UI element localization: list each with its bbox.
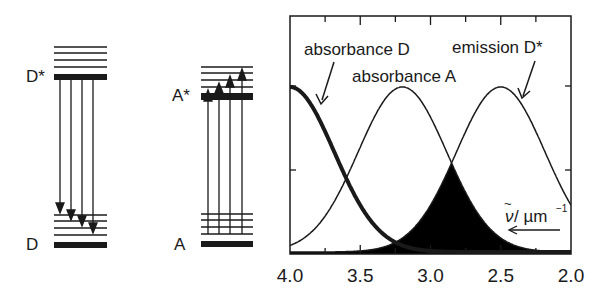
- acceptor-excited-label: A*: [172, 86, 190, 105]
- x-tick-label: 2.0: [558, 265, 584, 286]
- donor-excited-label: D*: [26, 67, 45, 86]
- emission-d-arrow: [518, 61, 535, 98]
- donor-energy-diagram: D* D: [26, 47, 107, 254]
- axis-unit: / µm: [514, 207, 547, 226]
- acceptor-ground-label: A: [174, 235, 186, 254]
- figure: D* D A* A: [0, 0, 601, 305]
- spectra-chart: 4.03.53.02.52.0 absorbance D absorbance …: [277, 16, 584, 286]
- axis-exponent: −1: [556, 203, 568, 214]
- absorbance-d-label: absorbance D: [304, 40, 410, 59]
- x-tick-label: 2.5: [488, 265, 514, 286]
- tilde-mark: ~: [504, 196, 512, 211]
- direction-arrow: [509, 226, 560, 234]
- acceptor-ground-state-bar: [201, 241, 253, 247]
- x-tick-labels: 4.03.53.02.52.0: [277, 265, 584, 286]
- x-axis-label: ν ~ / µm −1: [504, 196, 568, 226]
- absorbance-d-arrow: [316, 62, 334, 104]
- x-tick-label: 4.0: [277, 265, 303, 286]
- x-tick-label: 3.0: [417, 265, 443, 286]
- donor-emission-arrows: [56, 80, 97, 233]
- donor-ground-label: D: [26, 235, 38, 254]
- acceptor-energy-diagram: A* A: [172, 67, 253, 254]
- absorbance-a-label: absorbance A: [352, 67, 457, 86]
- emission-d-label: emission D*: [452, 38, 543, 57]
- donor-ground-state-bar: [54, 242, 107, 248]
- donor-excited-state-bar: [54, 74, 107, 80]
- x-tick-label: 3.5: [347, 265, 373, 286]
